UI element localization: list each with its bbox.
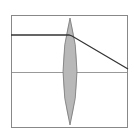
converging-lens [63, 18, 77, 125]
lens-ray-diagram [0, 0, 134, 132]
